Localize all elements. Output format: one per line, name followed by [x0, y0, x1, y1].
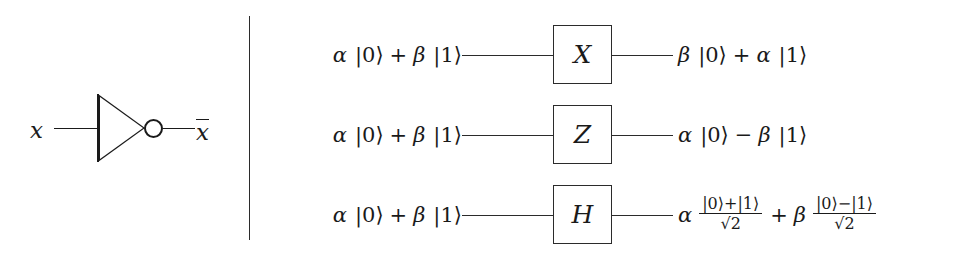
- fraction-numerator: |0⟩−|1⟩: [813, 195, 876, 213]
- output-state-h: α|0⟩+|1⟩√2+β|0⟩−|1⟩√2: [678, 175, 878, 255]
- input-coefficient-beta: β: [413, 43, 425, 67]
- not-gate-input-label: x: [30, 119, 43, 142]
- output-operator: +: [733, 43, 751, 67]
- quantum-circuits-panel: α|0⟩+β|1⟩ X β|0⟩+α|1⟩ α|0⟩+β|1⟩ Z α|0⟩−β…: [250, 0, 962, 256]
- fraction-numerator: |0⟩+|1⟩: [699, 195, 762, 213]
- radicand: 2: [731, 214, 741, 233]
- output-coefficient-beta: β: [758, 123, 770, 147]
- circuit-row-x: α|0⟩+β|1⟩ X β|0⟩+α|1⟩: [250, 15, 962, 95]
- input-state-x: α|0⟩+β|1⟩: [286, 15, 462, 95]
- gate-box-x[interactable]: X: [553, 25, 612, 84]
- input-operator: +: [390, 43, 408, 67]
- wire-out-x: [612, 55, 673, 56]
- wire-out-h: [612, 215, 673, 216]
- output-coefficient-beta: β: [794, 203, 806, 227]
- input-coefficient-alpha: α: [333, 43, 347, 67]
- input-ket-one: |1⟩: [433, 203, 462, 227]
- input-state-z: α|0⟩+β|1⟩: [286, 95, 462, 175]
- fraction-denominator: √2: [831, 214, 857, 233]
- input-ket-zero: |0⟩: [355, 123, 384, 147]
- output-coefficient-alpha: α: [756, 43, 770, 67]
- not-gate-triangle-fill: [100, 97, 143, 159]
- output-operator: +: [770, 203, 788, 227]
- output-coefficient-alpha: α: [678, 123, 692, 147]
- classical-not-gate-panel: x x: [0, 0, 249, 256]
- gate-box-z[interactable]: Z: [553, 105, 612, 164]
- output-state-z: α|0⟩−β|1⟩: [678, 95, 807, 175]
- input-state-h: α|0⟩+β|1⟩: [286, 175, 462, 255]
- overline-span: x: [196, 119, 209, 144]
- radicand: 2: [844, 214, 854, 233]
- superposition-fraction-minus: |0⟩−|1⟩√2: [813, 195, 876, 234]
- input-ket-one: |1⟩: [433, 43, 462, 67]
- output-coefficient-alpha: α: [678, 203, 692, 227]
- wire-in-z: [462, 135, 553, 136]
- circuit-row-h: α|0⟩+β|1⟩ H α|0⟩+|1⟩√2+β|0⟩−|1⟩√2: [250, 175, 962, 255]
- output-operator: −: [735, 123, 753, 147]
- wire-out-z: [612, 135, 673, 136]
- not-gate-output-label: x: [196, 119, 209, 144]
- input-ket-zero: |0⟩: [355, 43, 384, 67]
- fraction-denominator: √2: [718, 214, 744, 233]
- input-coefficient-beta: β: [413, 123, 425, 147]
- input-coefficient-alpha: α: [333, 203, 347, 227]
- circuit-row-z: α|0⟩+β|1⟩ Z α|0⟩−β|1⟩: [250, 95, 962, 175]
- input-coefficient-alpha: α: [333, 123, 347, 147]
- output-ket-one: |1⟩: [779, 43, 808, 67]
- input-operator: +: [390, 123, 408, 147]
- input-coefficient-beta: β: [413, 203, 425, 227]
- quantum-gate-figure: x x α|0⟩+β|1⟩ X β|0⟩+α|1⟩ α|0⟩+β|1⟩: [0, 0, 962, 256]
- gate-box-h[interactable]: H: [553, 185, 612, 244]
- wire-in-h: [462, 215, 553, 216]
- wire-in-x: [462, 55, 553, 56]
- superposition-fraction-plus: |0⟩+|1⟩√2: [699, 195, 762, 234]
- not-gate-input-wire: [54, 128, 99, 129]
- output-ket-zero: |0⟩: [700, 123, 729, 147]
- input-ket-one: |1⟩: [433, 123, 462, 147]
- input-operator: +: [390, 203, 408, 227]
- output-state-x: β|0⟩+α|1⟩: [678, 15, 807, 95]
- output-ket-zero: |0⟩: [698, 43, 727, 67]
- output-ket-one: |1⟩: [779, 123, 808, 147]
- output-coefficient-beta: β: [678, 43, 690, 67]
- not-gate-output-wire: [163, 128, 195, 129]
- input-ket-zero: |0⟩: [355, 203, 384, 227]
- not-gate-inversion-bubble-icon: [144, 119, 163, 138]
- not-gate-triangle-left-edge: [97, 94, 99, 162]
